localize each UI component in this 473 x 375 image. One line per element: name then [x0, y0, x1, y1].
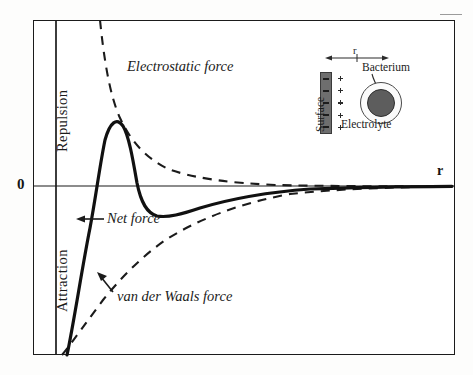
surface-negative-charge-icon: [323, 78, 329, 79]
inset-distance-label: r: [353, 45, 357, 56]
surface-label: Surface: [314, 97, 326, 132]
origin-label: 0: [17, 176, 25, 193]
electrostatic-force-label: Electrostatic force: [127, 58, 233, 75]
positive-ion-icon: [338, 88, 343, 93]
van-der-waals-force-label: van der Waals force: [117, 288, 232, 305]
net-force-label: Net force: [107, 210, 160, 227]
bacterium-label: Bacterium: [362, 61, 410, 73]
scan-artifact-mark: [440, 14, 462, 15]
inset-schematic: r Surface Bacterium Electroly: [300, 44, 460, 146]
y-axis-label-attraction: Attraction: [54, 249, 71, 312]
surface-negative-charge-icon: [323, 90, 329, 91]
x-axis-label: r: [437, 163, 443, 179]
dlvo-force-figure: Repulsion Attraction 0 r Electrostatic f…: [0, 0, 473, 375]
positive-ion-icon: [338, 76, 343, 81]
bacterium-cell-body: [367, 89, 395, 117]
positive-ion-icon: [338, 100, 343, 105]
y-axis-label-repulsion: Repulsion: [54, 90, 71, 152]
electrolyte-label: Electrolyte: [341, 118, 391, 130]
